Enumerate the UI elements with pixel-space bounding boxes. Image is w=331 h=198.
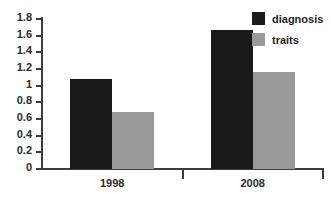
- y-axis-tick-label: 1.8: [17, 11, 32, 23]
- x-axis-label-1998: 1998: [42, 177, 183, 190]
- x-axis-label-2008: 2008: [183, 177, 324, 190]
- legend-item-diagnosis: diagnosis: [252, 9, 323, 28]
- y-axis-tick-label: 0: [26, 161, 32, 173]
- bar-traits-1998: [112, 112, 154, 169]
- y-axis-tick-label: 0.4: [17, 128, 32, 140]
- y-axis-tick-label: 1: [26, 78, 32, 90]
- chart-legend: diagnosistraits: [252, 9, 323, 51]
- y-axis-tick-label: 0.6: [17, 111, 32, 123]
- y-axis-tick-label: 1.6: [17, 28, 32, 40]
- y-axis-tick-label: 0.2: [17, 144, 32, 156]
- y-axis-tick-label: 0.8: [17, 94, 32, 106]
- legend-label-traits: traits: [272, 34, 299, 46]
- y-axis-tick-label: 1.2: [17, 61, 32, 73]
- legend-swatch-traits: [252, 33, 265, 46]
- legend-label-diagnosis: diagnosis: [272, 13, 323, 25]
- bar-diagnosis-1998: [70, 79, 112, 169]
- y-axis-tick-label: 1.4: [17, 44, 32, 56]
- legend-swatch-diagnosis: [252, 12, 265, 25]
- bar-chart: 00.20.40.60.811.21.41.61.8 19982008 diag…: [0, 0, 331, 198]
- bar-diagnosis-2008: [211, 30, 253, 169]
- legend-item-traits: traits: [252, 30, 323, 49]
- bar-traits-2008: [253, 72, 295, 169]
